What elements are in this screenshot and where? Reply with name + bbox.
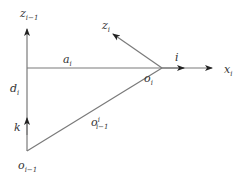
label-o-prev: oi−1 [18,160,37,174]
z-i-axis [113,34,162,68]
label-i-vector: i [175,52,179,63]
diagram-canvas: zi−1 zi ai i xi oi di k oii−1 oi−1 [0,0,243,178]
label-k-vector: k [14,122,21,133]
label-z-prev: zi−1 [20,8,38,22]
label-a-i: ai [63,54,72,68]
label-d-i: di [10,83,19,97]
label-o-i-prev-vector: oii−1 [91,117,108,131]
o-vector-hypotenuse [27,68,162,151]
diagram-lines [0,0,243,178]
label-o-i: oi [144,73,153,87]
label-x-i: xi [224,64,232,78]
label-z-i: zi [102,20,110,34]
